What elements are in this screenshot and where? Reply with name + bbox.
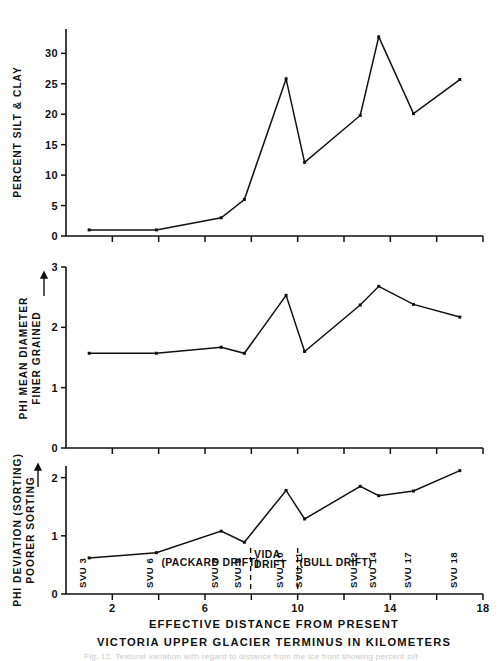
data-point-marker: [220, 530, 223, 533]
drift-annotations: (PACKARD DRIFT)VIDADRIFT(BULL DRIFT): [161, 548, 372, 590]
data-point-marker: [359, 485, 362, 488]
y-tick-label: 30: [45, 47, 58, 59]
caption: Fig. 12. Textural variation with regard …: [84, 652, 418, 661]
data-point-marker: [377, 285, 380, 288]
data-point-marker: [303, 350, 306, 353]
data-point-marker: [155, 551, 158, 554]
data-point-marker: [458, 469, 461, 472]
x-tick-label: 2: [109, 602, 116, 614]
y-tick-label: 1: [51, 382, 58, 394]
data-point-marker: [412, 303, 415, 306]
axis-lines: [66, 267, 483, 448]
sample-label-1: SVU 3: [77, 558, 88, 588]
y-tick-label: 1: [51, 530, 58, 542]
y-tick-label: 20: [45, 108, 58, 120]
data-point-marker: [458, 78, 461, 81]
y-tick-label: 2: [51, 321, 58, 333]
y-tick-label: 15: [45, 139, 58, 151]
data-point-marker: [220, 346, 223, 349]
sample-label-2: SVU 6: [144, 558, 155, 588]
y-tick-label: 2: [51, 472, 58, 484]
drift-label-packard: (PACKARD DRIFT): [161, 557, 259, 568]
y-axis-titles: PERCENT SILT & CLAYPHI MEAN DIAMETERFINE…: [12, 66, 42, 607]
series-line: [89, 471, 460, 558]
axis-lines: [66, 29, 483, 236]
data-point-marker: [359, 114, 362, 117]
data-point-marker: [377, 494, 380, 497]
x-axis-titles: EFFECTIVE DISTANCE FROM PRESENTVICTORIA …: [97, 618, 451, 648]
y-axis-title-top: PERCENT SILT & CLAY: [12, 66, 23, 198]
data-point-marker: [88, 352, 91, 355]
figure-container: 051015202530012301226101418PERCENT SILT …: [0, 0, 502, 661]
x-tick-label: 6: [202, 602, 209, 614]
y-tick-label: 3: [51, 261, 58, 273]
data-point-marker: [220, 216, 223, 219]
data-point-marker: [155, 228, 158, 231]
data-point-marker: [303, 517, 306, 520]
data-point-marker: [243, 198, 246, 201]
data-point-marker: [458, 316, 461, 319]
data-point-marker: [359, 304, 362, 307]
data-point-marker: [285, 294, 288, 297]
x-axis-title-line1: EFFECTIVE DISTANCE FROM PRESENT: [149, 618, 399, 630]
finer-grained-arrow-icon: [41, 272, 47, 296]
y-tick-label: 0: [51, 230, 58, 242]
y-tick-label: 10: [45, 169, 58, 181]
sample-label-10: SVU 18: [448, 552, 459, 588]
data-point-marker: [155, 352, 158, 355]
y-axis-title-middle-line1: PHI MEAN DIAMETER: [18, 297, 29, 420]
x-tick-label: 10: [291, 602, 304, 614]
panel-phi-deviation: 01226101418: [51, 466, 489, 614]
data-point-marker: [88, 228, 91, 231]
figure-caption-faint: Fig. 12. Textural variation with regard …: [84, 652, 418, 661]
series-line: [89, 37, 460, 230]
y-tick-label: 0: [51, 442, 58, 454]
data-point-marker: [412, 112, 415, 115]
series-line: [89, 286, 460, 353]
drift-label-vida-line2: DRIFT: [254, 559, 287, 570]
data-point-marker: [412, 490, 415, 493]
y-axis-title-bottom-line2: POORER SORTING: [25, 476, 36, 583]
drift-label-bull: (BULL DRIFT): [300, 557, 373, 568]
figure-svg: 051015202530012301226101418PERCENT SILT …: [0, 0, 502, 661]
data-point-marker: [243, 541, 246, 544]
sample-label-9: SVU 17: [402, 552, 413, 588]
x-axis-title-line2: VICTORIA UPPER GLACIER TERMINUS IN KILOM…: [97, 636, 451, 648]
data-point-marker: [243, 352, 246, 355]
panel-percent-silt-clay: 051015202530: [45, 29, 483, 242]
y-axis-title-middle-line2: FINER GRAINED: [31, 311, 42, 404]
panel-phi-mean-diameter: 0123: [51, 261, 483, 454]
data-point-marker: [303, 161, 306, 164]
data-point-marker: [285, 77, 288, 80]
y-tick-label: 5: [51, 200, 58, 212]
y-tick-label: 25: [45, 78, 58, 90]
data-point-marker: [285, 489, 288, 492]
x-tick-label: 18: [476, 602, 489, 614]
data-point-marker: [377, 35, 380, 38]
x-tick-label: 14: [384, 602, 398, 614]
y-tick-label: 0: [51, 588, 58, 600]
y-axis-title-bottom-line1: PHI DEVIATION (SORTING): [12, 453, 23, 607]
